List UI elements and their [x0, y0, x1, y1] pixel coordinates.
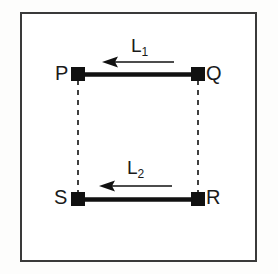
- vertex-marker-S: [71, 192, 85, 206]
- vertex-label-P: P: [55, 63, 68, 83]
- arrow-L1: [102, 57, 174, 68]
- vertex-marker-P: [71, 67, 85, 81]
- arrow-label-L1: L1: [131, 36, 148, 55]
- arrow-label-L1-subscript: 1: [142, 45, 149, 59]
- arrow-L2: [99, 181, 172, 192]
- arrow-label-L2-subscript: 2: [138, 167, 145, 181]
- vertex-marker-Q: [191, 67, 205, 81]
- vertex-marker-R: [191, 192, 205, 206]
- arrow-label-L2: L2: [127, 158, 144, 177]
- vertex-label-Q: Q: [206, 63, 222, 83]
- vertex-label-S: S: [54, 187, 67, 207]
- diagram-canvas: P Q S R L1 L2: [0, 0, 278, 274]
- arrow-label-L1-base: L: [131, 35, 142, 56]
- vertex-label-R: R: [206, 187, 220, 207]
- arrow-label-L2-base: L: [127, 157, 138, 178]
